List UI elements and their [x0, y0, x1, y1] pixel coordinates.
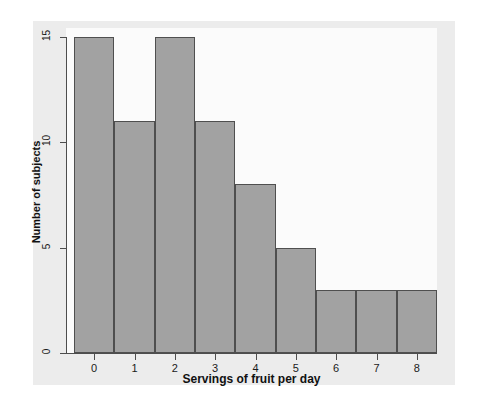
bar — [195, 121, 235, 353]
x-axis-tick — [256, 354, 257, 360]
x-axis-tick — [417, 354, 418, 360]
histogram-figure: 051015 012345678 Number of subjects Serv… — [0, 0, 488, 409]
x-axis-tick — [175, 354, 176, 360]
x-axis-tick — [377, 354, 378, 360]
y-axis-tick — [60, 353, 66, 354]
y-axis-tick — [60, 37, 66, 38]
x-axis-tick — [94, 354, 95, 360]
x-axis-tick — [135, 354, 136, 360]
bar — [276, 248, 316, 353]
y-axis-title: Number of subjects — [30, 112, 42, 272]
y-axis-tick-label: 5 — [41, 235, 52, 257]
y-axis-tick-label: 0 — [41, 341, 52, 363]
bar — [397, 290, 437, 353]
y-axis-tick-label: 10 — [41, 130, 52, 152]
bar — [155, 37, 195, 353]
x-axis-line — [66, 353, 437, 354]
bar — [114, 121, 154, 353]
x-axis-tick — [215, 354, 216, 360]
x-axis-tick — [296, 354, 297, 360]
y-axis-tick-label-wrap: 15 — [33, 30, 57, 44]
y-axis-tick-label: 15 — [41, 25, 52, 47]
bar — [356, 290, 396, 353]
bar — [235, 184, 275, 353]
x-axis-title: Servings of fruit per day — [66, 372, 437, 386]
bar — [316, 290, 356, 353]
y-axis-line — [66, 37, 67, 354]
bar — [74, 37, 114, 353]
x-axis-tick — [336, 354, 337, 360]
y-axis-tick — [60, 142, 66, 143]
y-axis-tick — [60, 248, 66, 249]
y-axis-tick-label-wrap: 0 — [33, 346, 57, 360]
